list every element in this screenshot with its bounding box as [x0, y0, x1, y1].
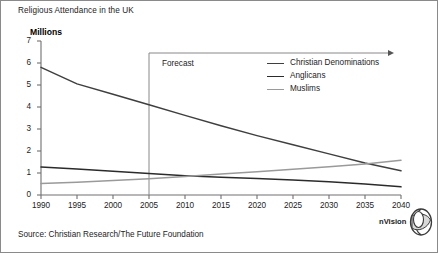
- x-tick-label: 2025: [275, 202, 311, 210]
- forecast-arrow-icon: [388, 50, 394, 56]
- forecast-label: Forecast: [162, 59, 194, 68]
- series-line: [41, 167, 401, 187]
- y-tick-label: 5: [17, 81, 31, 89]
- legend-swatch-icon: [267, 76, 284, 77]
- y-tick-label: 6: [17, 59, 31, 67]
- legend-item[interactable]: Muslims: [267, 83, 379, 96]
- x-tick-marks: [41, 195, 401, 199]
- x-tick-label: 2030: [311, 202, 347, 210]
- y-tick-label: 0: [17, 191, 31, 199]
- legend-item[interactable]: Anglicans: [267, 70, 379, 83]
- x-tick-label: 1990: [23, 202, 59, 210]
- legend-item-label: Anglicans: [290, 72, 326, 80]
- y-tick-label: 1: [17, 169, 31, 177]
- chart-legend: Christian DenominationsAnglicansMuslims: [267, 57, 379, 96]
- x-tick-label: 2000: [95, 202, 131, 210]
- series-line: [41, 160, 401, 183]
- legend-swatch-icon: [267, 89, 284, 90]
- x-tick-label: 1995: [59, 202, 95, 210]
- y-tick-label: 7: [17, 37, 31, 45]
- legend-swatch-icon: [267, 63, 284, 64]
- source-note: Source: Christian Research/The Future Fo…: [18, 230, 204, 239]
- x-tick-label: 2035: [347, 202, 383, 210]
- x-tick-label: 2015: [203, 202, 239, 210]
- nvision-brand-label: nVision: [379, 217, 406, 226]
- y-tick-label: 2: [17, 147, 31, 155]
- x-tick-label: 2020: [239, 202, 275, 210]
- chart-frame: Religious Attendance in the UK Millions …: [0, 0, 438, 253]
- legend-item[interactable]: Christian Denominations: [267, 57, 379, 70]
- y-tick-marks: [37, 41, 41, 195]
- chart-plot-area: [1, 1, 439, 254]
- nvision-sphere-icon: [408, 207, 434, 237]
- x-tick-label: 2005: [131, 202, 167, 210]
- y-tick-label: 3: [17, 125, 31, 133]
- legend-item-label: Muslims: [290, 85, 320, 93]
- legend-item-label: Christian Denominations: [290, 59, 379, 67]
- y-tick-label: 4: [17, 103, 31, 111]
- x-tick-label: 2010: [167, 202, 203, 210]
